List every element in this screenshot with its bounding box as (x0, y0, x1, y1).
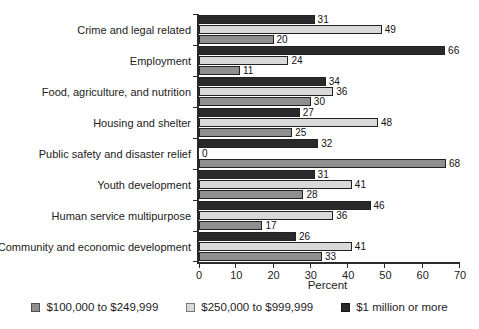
bar (199, 159, 446, 168)
category-label: Youth development (0, 169, 191, 200)
legend-item: $100,000 to $249,999 (31, 301, 158, 313)
bar-row: 49 (199, 25, 460, 34)
value-label: 66 (448, 46, 459, 55)
value-label: 68 (449, 159, 460, 168)
value-label: 0 (202, 149, 208, 158)
legend-label: $100,000 to $249,999 (46, 301, 158, 313)
x-axis-tick (459, 264, 460, 268)
value-label: 26 (299, 232, 310, 241)
legend: $100,000 to $249,999$250,000 to $999,999… (0, 301, 479, 313)
legend-item: $1 million or more (341, 301, 447, 313)
bar-row: 36 (199, 87, 460, 96)
bar-group: 662411 (199, 45, 460, 76)
x-axis-tick (347, 264, 348, 268)
y-axis-tick (193, 107, 197, 108)
bar (199, 35, 274, 44)
bar-row: 24 (199, 56, 460, 65)
value-label: 24 (291, 56, 302, 65)
y-axis-tick (193, 138, 197, 139)
value-label: 41 (355, 180, 366, 189)
bar-row: 36 (199, 211, 460, 220)
legend-item: $250,000 to $999,999 (186, 301, 313, 313)
bar-row: 30 (199, 97, 460, 106)
x-axis-tick (273, 264, 274, 268)
bar-group: 314920 (199, 14, 460, 45)
bar-group: 343630 (199, 76, 460, 107)
bar (199, 180, 352, 189)
bar-row: 17 (199, 221, 460, 230)
bar (199, 252, 322, 261)
value-label: 33 (325, 252, 336, 261)
bar-row: 28 (199, 190, 460, 199)
bar (199, 170, 315, 179)
bar-row: 11 (199, 66, 460, 75)
value-label: 28 (306, 190, 317, 199)
value-label: 34 (329, 77, 340, 86)
bar-row: 20 (199, 35, 460, 44)
bar-row: 31 (199, 15, 460, 24)
bar-group: 463617 (199, 200, 460, 231)
value-label: 27 (303, 108, 314, 117)
bar (199, 190, 303, 199)
y-axis-tick (193, 14, 197, 15)
bar-row: 26 (199, 232, 460, 241)
bar-group: 32068 (199, 138, 460, 169)
bar (199, 77, 326, 86)
y-axis-tick (193, 200, 197, 201)
value-label: 31 (318, 15, 329, 24)
value-label: 17 (265, 221, 276, 230)
x-axis-title: Percent (197, 279, 458, 291)
y-axis-tick (193, 169, 197, 170)
legend-swatch (341, 303, 350, 312)
x-axis-tick (235, 264, 236, 268)
bar-group: 264133 (199, 231, 460, 262)
bar (199, 118, 378, 127)
x-axis-tick (422, 264, 423, 268)
bar (199, 139, 318, 148)
bar-row: 46 (199, 201, 460, 210)
category-label: Employment (0, 45, 191, 76)
bar (199, 15, 315, 24)
x-axis-tick (199, 264, 200, 268)
y-axis-tick (193, 231, 197, 232)
bar-group: 274825 (199, 107, 460, 138)
bar-row: 31 (199, 170, 460, 179)
bar-row: 68 (199, 159, 460, 168)
value-label: 20 (277, 35, 288, 44)
value-label: 30 (314, 97, 325, 106)
value-label: 36 (336, 211, 347, 220)
bar (199, 232, 296, 241)
bar (199, 211, 333, 220)
value-label: 46 (374, 201, 385, 210)
y-axis-tick (193, 261, 197, 262)
value-label: 49 (385, 25, 396, 34)
bar (199, 242, 352, 251)
category-label: Housing and shelter (0, 107, 191, 138)
category-label: Crime and legal related (0, 14, 191, 45)
category-label: Public safety and disaster relief (0, 138, 191, 169)
bar (199, 201, 371, 210)
x-axis-tick (384, 264, 385, 268)
category-label: Community and economic development (0, 231, 191, 262)
bar (199, 25, 382, 34)
bar-row: 0 (199, 149, 460, 158)
value-label: 36 (336, 87, 347, 96)
plot-area: 3149206624113436302748253206831412846361… (197, 14, 460, 264)
value-label: 48 (381, 118, 392, 127)
bar-row: 33 (199, 252, 460, 261)
category-label: Food, agriculture, and nutrition (0, 76, 191, 107)
bar-row: 32 (199, 139, 460, 148)
bar (199, 87, 333, 96)
bar-row: 41 (199, 180, 460, 189)
bar-row: 34 (199, 77, 460, 86)
category-label: Human service multipurpose (0, 200, 191, 231)
bar-row: 41 (199, 242, 460, 251)
bar (199, 97, 311, 106)
y-axis-tick (193, 76, 197, 77)
legend-swatch (31, 303, 40, 312)
bar-groups: 3149206624113436302748253206831412846361… (199, 14, 460, 262)
value-label: 32 (321, 139, 332, 148)
value-label: 25 (295, 128, 306, 137)
bar (199, 108, 300, 117)
x-axis-tick (310, 264, 311, 268)
